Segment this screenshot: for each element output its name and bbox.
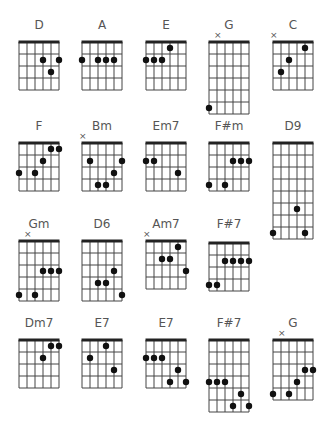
- finger-dot: [111, 57, 117, 63]
- finger-dot: [56, 268, 62, 274]
- finger-dot: [246, 158, 252, 164]
- nut: [273, 41, 314, 44]
- finger-dot: [111, 268, 117, 274]
- finger-dot: [40, 355, 46, 361]
- finger-dot: [95, 182, 101, 188]
- finger-dot: [87, 158, 93, 164]
- finger-dot: [56, 57, 62, 63]
- finger-dot: [175, 170, 181, 176]
- finger-dot: [103, 57, 109, 63]
- fretboard-grid: [142, 239, 190, 295]
- finger-dot: [103, 182, 109, 188]
- muted-string-icon: ×: [270, 30, 278, 40]
- finger-dot: [56, 146, 62, 152]
- fretboard-grid: [78, 338, 126, 394]
- finger-dot: [143, 355, 149, 361]
- muted-string-icon: ×: [79, 131, 87, 141]
- chord-name: Em7: [136, 119, 196, 133]
- nut: [19, 41, 60, 44]
- finger-dot: [103, 343, 109, 349]
- chord-name: E: [136, 18, 196, 32]
- finger-dot: [238, 158, 244, 164]
- finger-dot: [286, 57, 292, 63]
- chord-name: E7: [136, 316, 196, 330]
- finger-dot: [111, 367, 117, 373]
- chord-name: D: [9, 18, 69, 32]
- finger-dot: [214, 282, 220, 288]
- finger-dot: [167, 45, 173, 51]
- fretboard-grid: [78, 40, 126, 96]
- finger-dot: [302, 230, 308, 236]
- chord-name: F#7: [199, 217, 259, 231]
- finger-dot: [48, 69, 54, 75]
- finger-dot: [246, 258, 252, 264]
- finger-dot: [79, 57, 85, 63]
- nut: [209, 242, 250, 245]
- finger-dot: [32, 170, 38, 176]
- finger-dot: [206, 282, 212, 288]
- fretboard-grid: [78, 141, 126, 197]
- finger-dot: [119, 292, 125, 298]
- finger-dot: [48, 268, 54, 274]
- finger-dot: [222, 182, 228, 188]
- chord-name: E7: [72, 316, 132, 330]
- finger-dot: [302, 45, 308, 51]
- finger-dot: [270, 230, 276, 236]
- finger-dot: [294, 206, 300, 212]
- fretboard-grid: [142, 40, 190, 96]
- fretboard-grid: [269, 338, 317, 406]
- finger-dot: [16, 170, 22, 176]
- finger-dot: [230, 158, 236, 164]
- muted-string-icon: ×: [24, 229, 32, 239]
- nut: [82, 41, 123, 44]
- finger-dot: [48, 343, 54, 349]
- finger-dot: [222, 258, 228, 264]
- nut: [146, 142, 187, 145]
- finger-dot: [40, 268, 46, 274]
- finger-dot: [238, 391, 244, 397]
- fretboard-grid: [205, 241, 253, 297]
- fretboard-grid: [269, 40, 317, 96]
- fretboard-grid: [15, 239, 63, 307]
- finger-dot: [238, 258, 244, 264]
- finger-dot: [206, 182, 212, 188]
- fretboard-grid: [205, 141, 253, 197]
- finger-dot: [95, 57, 101, 63]
- nut: [19, 240, 60, 243]
- finger-dot: [151, 57, 157, 63]
- finger-dot: [151, 158, 157, 164]
- fretboard-grid: [142, 338, 190, 394]
- chord-name: F#7: [199, 316, 259, 330]
- fretboard-grid: [15, 338, 63, 394]
- fretboard-grid: [142, 141, 190, 197]
- finger-dot: [214, 379, 220, 385]
- muted-string-icon: ×: [214, 30, 222, 40]
- finger-dot: [111, 170, 117, 176]
- muted-string-icon: ×: [143, 229, 151, 239]
- nut: [146, 240, 187, 243]
- nut: [146, 339, 187, 342]
- finger-dot: [95, 280, 101, 286]
- finger-dot: [40, 158, 46, 164]
- chord-name: G: [199, 18, 259, 32]
- finger-dot: [103, 280, 109, 286]
- chord-name: F: [9, 119, 69, 133]
- chord-name: Gm: [9, 217, 69, 231]
- chord-name: G: [263, 316, 323, 330]
- finger-dot: [230, 258, 236, 264]
- finger-dot: [159, 355, 165, 361]
- nut: [82, 339, 123, 342]
- nut: [273, 142, 314, 145]
- fretboard-grid: [205, 40, 253, 120]
- nut: [19, 339, 60, 342]
- finger-dot: [48, 146, 54, 152]
- fretboard-grid: [15, 141, 63, 197]
- finger-dot: [40, 57, 46, 63]
- nut: [209, 142, 250, 145]
- finger-dot: [32, 292, 38, 298]
- fretboard-grid: [269, 141, 317, 245]
- nut: [82, 142, 123, 145]
- finger-dot: [230, 403, 236, 409]
- finger-dot: [302, 367, 308, 373]
- fretboard-grid: [205, 338, 253, 418]
